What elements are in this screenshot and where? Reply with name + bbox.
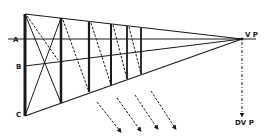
label-b: B [16, 63, 21, 71]
label-vp: V P [245, 31, 258, 39]
label-dvp: DV P [235, 119, 254, 127]
bottom-line [25, 39, 242, 116]
dashed-diagonal-5 [129, 27, 141, 74]
label-c: C [16, 111, 21, 119]
perspective-diagram: A B C V P DV P [0, 0, 269, 137]
diagonal-arrow-1 [97, 102, 120, 131]
diagonal-arrow-4 [151, 91, 175, 128]
diagonal-arrow-3 [135, 95, 157, 128]
diagonal-x-1 [25, 14, 61, 103]
dashed-diagonal-3 [91, 23, 111, 85]
dashed-diagonal-4 [113, 25, 127, 79]
dashed-diagonal-2 [63, 20, 89, 92]
vanishing-point-dot [241, 38, 244, 41]
diagonal-arrow-2 [117, 98, 140, 130]
diagonal-x-2 [25, 18, 61, 116]
label-a: A [13, 36, 19, 44]
